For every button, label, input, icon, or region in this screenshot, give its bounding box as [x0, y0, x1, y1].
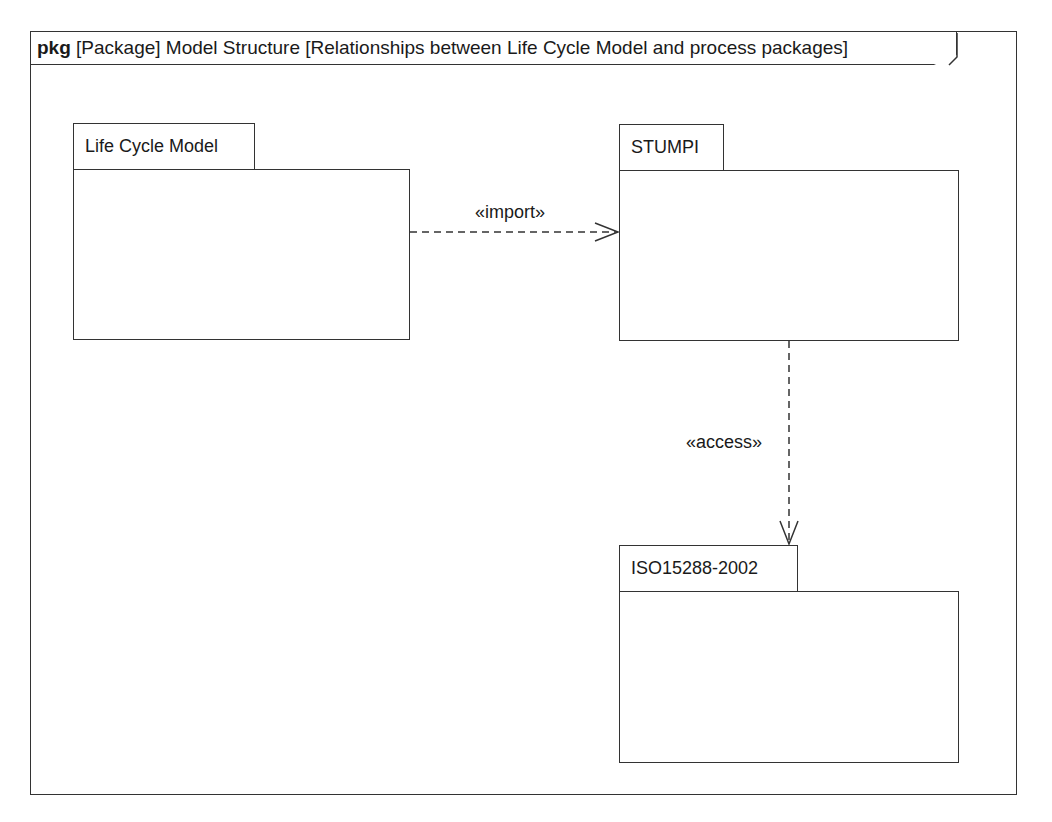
access-stereotype-label: «access»: [686, 432, 762, 453]
relationship-lines: [0, 0, 1052, 822]
access-dependency-line[interactable]: [780, 341, 798, 544]
import-dependency-line[interactable]: [410, 223, 618, 241]
import-stereotype-label: «import»: [475, 202, 545, 223]
